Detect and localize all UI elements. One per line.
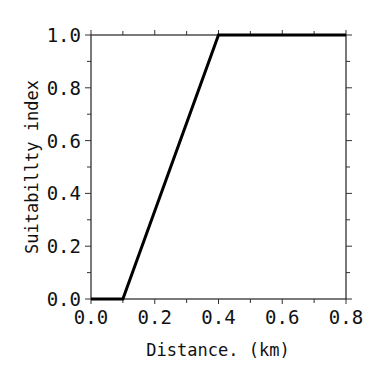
y-tick-labels: 0.00.20.40.60.81.0 — [47, 24, 81, 310]
x-tick-label: 0.4 — [201, 306, 235, 328]
x-tick-label: 0.8 — [329, 306, 363, 328]
y-tick-label: 0.4 — [47, 182, 81, 204]
y-tick-label: 0.2 — [47, 235, 81, 257]
y-tick-label: 1.0 — [47, 24, 81, 46]
x-tick-label: 0.2 — [138, 306, 172, 328]
y-tick-label: 0.0 — [47, 288, 81, 310]
chart: 0.00.20.40.60.8 0.00.20.40.60.81.0 Dista… — [0, 0, 387, 384]
series-group — [91, 35, 346, 299]
axis-ticks — [85, 30, 352, 304]
y-tick-label: 0.6 — [47, 130, 81, 152]
x-axis-title: Distance. (km) — [146, 340, 289, 360]
y-axis-title: Suitabillty index — [22, 80, 42, 254]
plot-frame — [91, 35, 346, 299]
y-tick-label: 0.8 — [47, 77, 81, 99]
x-tick-label: 0.6 — [265, 306, 299, 328]
series-line — [91, 35, 346, 299]
x-tick-labels: 0.00.20.40.60.8 — [74, 306, 363, 328]
